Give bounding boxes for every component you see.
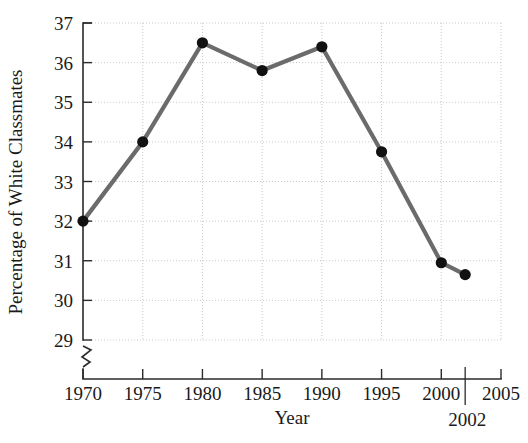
y-tick-label: 36 xyxy=(54,53,73,74)
data-point-2000 xyxy=(436,257,447,268)
axis-break-symbol xyxy=(82,346,91,367)
x-tick-marks xyxy=(83,369,501,379)
line-chart: 19701975198019851990199520002005 2930313… xyxy=(0,0,528,443)
data-line xyxy=(83,43,465,275)
y-tick-label: 33 xyxy=(54,172,73,193)
y-tick-label: 30 xyxy=(54,290,73,311)
chart-page: 19701975198019851990199520002005 2930313… xyxy=(0,0,528,443)
x-tick-label: 2005 xyxy=(482,383,520,404)
x-tick-label: 1990 xyxy=(303,383,341,404)
x-tick-label: 1995 xyxy=(363,383,401,404)
y-axis-title: Percentage of White Classmates xyxy=(5,70,26,315)
data-point-1970 xyxy=(77,216,88,227)
data-point-1990 xyxy=(316,41,327,52)
data-point-1995 xyxy=(376,146,387,157)
y-tick-label: 35 xyxy=(54,92,73,113)
y-tick-marks xyxy=(83,23,92,340)
final-year-callout-label: 2002 xyxy=(448,409,486,430)
data-point-2002 xyxy=(460,269,471,280)
y-tick-label: 37 xyxy=(54,13,73,34)
data-point-1975 xyxy=(137,136,148,147)
y-tick-label: 29 xyxy=(54,330,73,351)
y-tick-labels: 293031323334353637 xyxy=(54,13,74,351)
y-tick-label: 32 xyxy=(54,211,73,232)
x-axis-line xyxy=(83,369,501,379)
x-tick-label: 2000 xyxy=(422,383,460,404)
data-points xyxy=(77,37,470,280)
data-point-1980 xyxy=(197,37,208,48)
x-axis-title: Year xyxy=(274,407,310,428)
plot-frame xyxy=(83,23,501,379)
x-tick-labels: 19701975198019851990199520002005 xyxy=(64,383,520,404)
series-line xyxy=(83,43,465,275)
y-axis-break-zigzag xyxy=(82,346,91,367)
x-tick-label: 1970 xyxy=(64,383,102,404)
x-tick-label: 1985 xyxy=(243,383,281,404)
y-tick-label: 34 xyxy=(54,132,74,153)
data-point-1985 xyxy=(257,65,268,76)
gridlines-group xyxy=(83,23,501,340)
x-tick-label: 1975 xyxy=(124,383,162,404)
y-tick-label: 31 xyxy=(54,251,73,272)
x-tick-label: 1980 xyxy=(183,383,221,404)
